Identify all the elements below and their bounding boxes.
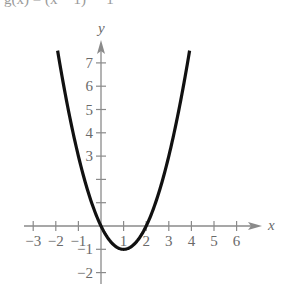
x-axis-label: x xyxy=(267,217,275,233)
y-tick-label: −2 xyxy=(77,265,93,281)
y-axis-label: y xyxy=(96,20,105,36)
x-tick-label: 1 xyxy=(120,233,128,249)
x-tick-label: 5 xyxy=(210,233,218,249)
y-tick-label: 7 xyxy=(86,55,94,71)
y-tick-label: 6 xyxy=(86,78,94,94)
x-tick-label: −2 xyxy=(48,233,64,249)
x-tick-label: 4 xyxy=(188,233,196,249)
x-tick-label: 3 xyxy=(165,233,173,249)
y-tick-label: 4 xyxy=(86,125,94,141)
parabola-curve xyxy=(58,51,190,250)
parabola-chart: g(x) = (x − 1)² − 1 −3−2−1123456−2−13456… xyxy=(0,0,290,292)
function-caption: g(x) = (x − 1)² − 1 xyxy=(4,0,114,8)
x-tick-label: −3 xyxy=(25,233,41,249)
y-tick-label: −1 xyxy=(77,241,93,257)
y-tick-label: 3 xyxy=(86,148,94,164)
x-tick-label: 2 xyxy=(142,233,150,249)
x-tick-label: 6 xyxy=(233,233,241,249)
y-tick-label: 5 xyxy=(86,102,94,118)
